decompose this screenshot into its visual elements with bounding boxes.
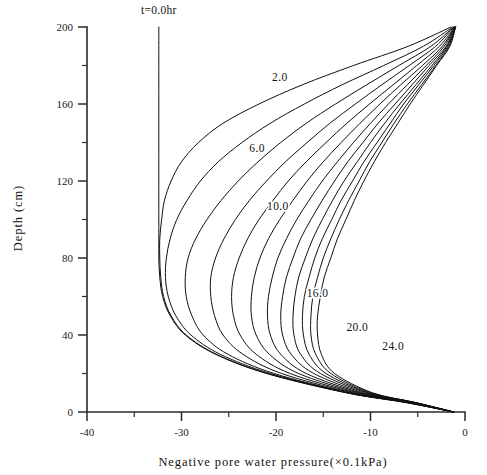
curve-t-18.0	[293, 27, 456, 412]
x-tick-label: -10	[363, 426, 378, 438]
t0-annotation: t=0.0hr	[141, 4, 177, 16]
curve-label-6: 6.0	[249, 142, 265, 154]
y-tick-label: 40	[62, 329, 74, 341]
y-tick-label: 80	[62, 252, 74, 264]
curve-t-6.0	[185, 27, 454, 412]
curve-series	[159, 27, 456, 412]
curve-t-2.0	[160, 27, 454, 412]
axes	[78, 27, 465, 421]
curve-t-14.0	[267, 27, 454, 412]
y-tick-label: 0	[68, 406, 74, 418]
y-tick-label: 200	[57, 21, 74, 33]
axis-spines	[87, 27, 465, 412]
curve-t-24.0	[317, 27, 455, 412]
curve-t-12.0	[251, 27, 455, 412]
curve-annotations: t=0.0hrt=0.0hr2.02.06.06.010.010.016.016…	[141, 4, 404, 353]
x-tick-label: 0	[462, 426, 468, 438]
curve-label-2: 2.0	[272, 71, 288, 83]
curve-label-16: 16.0	[307, 287, 329, 299]
curve-t-20.0	[302, 27, 455, 412]
x-tick-label: -40	[80, 426, 95, 438]
curve-t-0.0	[159, 27, 454, 412]
y-axis-title: Depth (cm)	[11, 185, 25, 251]
tick-labels: 04080120160200-40-30-20-100	[57, 21, 469, 438]
x-tick-label: -20	[269, 426, 284, 438]
curve-label-10: 10.0	[267, 200, 289, 212]
figure-container: 04080120160200-40-30-20-100 t=0.0hrt=0.0…	[0, 0, 487, 475]
curve-label-20: 20.0	[346, 321, 368, 333]
pore-pressure-depth-chart: 04080120160200-40-30-20-100 t=0.0hrt=0.0…	[0, 0, 487, 475]
y-tick-label: 160	[57, 98, 74, 110]
y-tick-label: 120	[57, 175, 74, 187]
x-tick-label: -30	[174, 426, 189, 438]
x-axis-title: Negative pore water pressure(×0.1kPa)	[158, 455, 387, 469]
curve-label-24: 24.0	[382, 340, 404, 352]
